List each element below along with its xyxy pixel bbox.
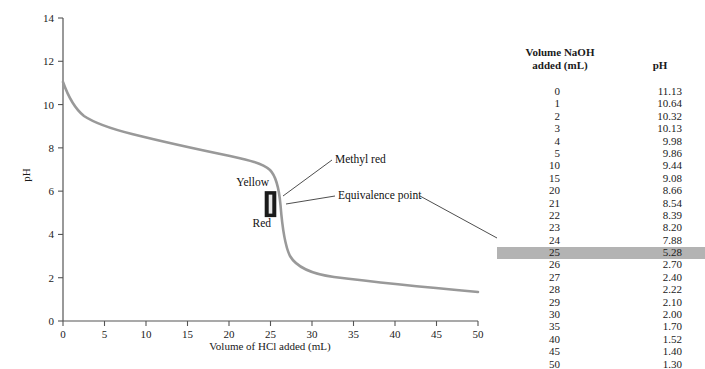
- y-tick-label: 8: [49, 142, 55, 154]
- cell-ph: 8.54: [627, 197, 682, 210]
- ph-data-table: Volume NaOH added (mL) pH 011.13110.6421…: [497, 46, 705, 369]
- cell-volume: 50: [500, 358, 560, 369]
- cell-volume: 35: [500, 320, 560, 333]
- x-tick-label: 25: [265, 328, 277, 340]
- table-header: Volume NaOH added (mL) pH: [497, 46, 705, 86]
- cell-ph: 8.20: [627, 221, 682, 234]
- x-tick-label: 10: [141, 328, 153, 340]
- cell-ph: 10.13: [627, 122, 682, 135]
- cell-ph: 10.32: [627, 110, 682, 123]
- y-axis-ticks: 02468101214: [43, 12, 63, 327]
- cell-volume: 28: [500, 283, 560, 296]
- cell-ph: 2.22: [627, 283, 682, 296]
- cell-ph: 10.64: [627, 97, 682, 110]
- table-header-volume-line1: Volume NaOH: [500, 46, 620, 59]
- x-tick-label: 0: [60, 328, 66, 340]
- titration-chart: 02468101214 05101520253035404550 pH Volu…: [0, 0, 500, 369]
- methyl-red-indicator-box: [265, 191, 277, 217]
- cell-ph: 2.40: [627, 271, 682, 284]
- y-tick-label: 0: [49, 315, 55, 327]
- table-header-volume: Volume NaOH added (mL): [500, 46, 620, 72]
- cell-ph: 9.08: [627, 172, 682, 185]
- cell-volume: 25: [500, 246, 560, 259]
- cell-volume: 24: [500, 234, 560, 247]
- cell-volume: 2: [500, 110, 560, 123]
- cell-volume: 23: [500, 221, 560, 234]
- table-body: 011.13110.64210.32310.1349.9859.86109.44…: [497, 86, 705, 369]
- titration-figure: 02468101214 05101520253035404550 pH Volu…: [0, 0, 705, 369]
- cell-volume: 1: [500, 97, 560, 110]
- cell-ph: 8.66: [627, 184, 682, 197]
- cell-ph: 1.70: [627, 320, 682, 333]
- cell-volume: 5: [500, 147, 560, 160]
- y-tick-label: 6: [49, 185, 55, 197]
- x-axis-title: Volume of HCl added (mL): [209, 340, 331, 353]
- annotation-equivalence-point: Equivalence point: [338, 189, 422, 202]
- cell-volume: 21: [500, 197, 560, 210]
- cell-volume: 22: [500, 209, 560, 222]
- y-tick-label: 4: [49, 228, 55, 240]
- cell-volume: 27: [500, 271, 560, 284]
- cell-volume: 4: [500, 135, 560, 148]
- plot-svg: 02468101214 05101520253035404550 pH Volu…: [0, 0, 500, 369]
- cell-volume: 40: [500, 333, 560, 346]
- x-tick-label: 35: [348, 328, 360, 340]
- cell-ph: 1.52: [627, 333, 682, 346]
- cell-ph: 2.10: [627, 296, 682, 309]
- cell-ph: 2.00: [627, 308, 682, 321]
- annotation-red: Red: [252, 217, 271, 229]
- table-header-volume-line2: added (mL): [500, 59, 620, 72]
- cell-ph: 11.13: [627, 85, 682, 98]
- x-tick-label: 20: [224, 328, 236, 340]
- cell-volume: 10: [500, 159, 560, 172]
- cell-volume: 45: [500, 345, 560, 358]
- cell-ph: 5.28: [627, 246, 682, 259]
- cell-ph: 9.86: [627, 147, 682, 160]
- cell-ph: 7.88: [627, 234, 682, 247]
- cell-ph: 1.40: [627, 345, 682, 358]
- cell-volume: 3: [500, 122, 560, 135]
- cell-ph: 9.98: [627, 135, 682, 148]
- cell-volume: 0: [500, 85, 560, 98]
- y-tick-label: 10: [43, 99, 55, 111]
- y-tick-label: 14: [43, 12, 55, 24]
- x-tick-label: 5: [102, 328, 108, 340]
- y-axis-title: pH: [20, 168, 32, 182]
- annotation-methyl-red: Methyl red: [335, 153, 386, 166]
- cell-ph: 2.70: [627, 258, 682, 271]
- table-row: 501.30: [497, 359, 705, 369]
- titration-curve: [63, 82, 478, 292]
- x-axis-ticks: 05101520253035404550: [60, 321, 484, 340]
- y-tick-label: 12: [43, 55, 54, 67]
- x-tick-label: 50: [473, 328, 485, 340]
- cell-volume: 20: [500, 184, 560, 197]
- cell-ph: 8.39: [627, 209, 682, 222]
- x-tick-label: 30: [307, 328, 319, 340]
- y-tick-label: 2: [49, 272, 55, 284]
- annotation-yellow: Yellow: [236, 176, 269, 188]
- cell-ph: 9.44: [627, 159, 682, 172]
- x-tick-label: 40: [390, 328, 402, 340]
- x-tick-label: 15: [182, 328, 194, 340]
- table-header-ph: pH: [632, 59, 688, 72]
- cell-volume: 29: [500, 296, 560, 309]
- cell-volume: 15: [500, 172, 560, 185]
- cell-volume: 30: [500, 308, 560, 321]
- x-tick-label: 45: [431, 328, 443, 340]
- cell-ph: 1.30: [627, 358, 682, 369]
- cell-volume: 26: [500, 258, 560, 271]
